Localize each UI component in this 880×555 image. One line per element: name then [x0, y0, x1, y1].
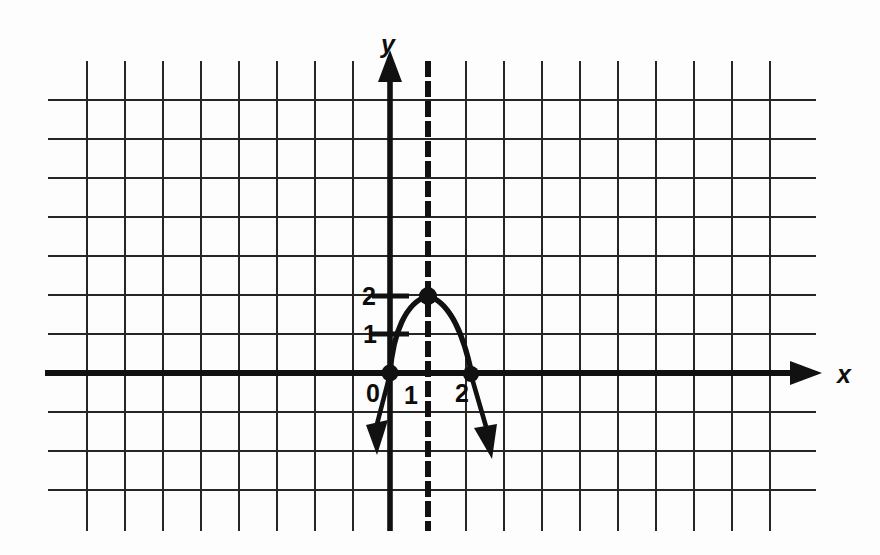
x-tick-label-2: 2 — [455, 381, 469, 406]
arrow-right-icon — [790, 361, 822, 385]
right-branch-arrow — [471, 375, 497, 459]
y-tick-label-1: 1 — [363, 322, 377, 347]
x-tick-label-1: 1 — [404, 383, 418, 408]
point-vertex — [419, 287, 437, 305]
x-axis-label: x — [837, 362, 851, 387]
y-tick-label-2: 2 — [362, 284, 376, 309]
graph-svg — [0, 0, 880, 555]
figure-canvas: x y 2 1 0 1 2 — [0, 0, 880, 555]
x-axis — [45, 361, 822, 385]
y-axis-label: y — [381, 32, 395, 57]
x-tick-label-0: 0 — [366, 381, 380, 406]
y-axis — [378, 50, 402, 531]
point-origin — [382, 365, 399, 382]
